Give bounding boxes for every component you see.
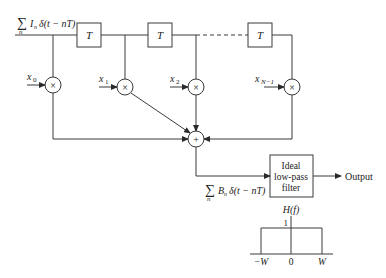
svg-text:2: 2 — [176, 78, 180, 86]
svg-text:1: 1 — [105, 78, 109, 86]
svg-text:1: 1 — [284, 218, 289, 228]
svg-text:T: T — [157, 29, 164, 41]
delay-box-1: T — [77, 23, 101, 47]
svg-text:W: W — [318, 257, 327, 267]
svg-text:×: × — [122, 82, 128, 93]
svg-text:N−1: N−1 — [260, 78, 274, 86]
svg-text:−W: −W — [254, 257, 269, 267]
input-signal-label: ∑ n I n δ(t − nT) — [17, 15, 76, 36]
svg-text:H(f): H(f) — [282, 204, 300, 216]
svg-text:x: x — [169, 73, 175, 84]
svg-text:x: x — [254, 73, 260, 84]
delay-box-2: T — [148, 23, 172, 47]
svg-text:n: n — [207, 195, 211, 203]
summed-signal-label: ∑ n B n δ(t − nT) — [205, 182, 266, 203]
adder: + — [188, 131, 204, 147]
svg-text:δ(t − nT): δ(t − nT) — [229, 185, 266, 197]
multiplier-x0: × x 0 — [26, 71, 61, 93]
svg-text:filter: filter — [282, 183, 301, 193]
svg-text:x: x — [98, 73, 104, 84]
svg-text:T: T — [257, 29, 264, 41]
frequency-response-plot: H(f) 1 −W 0 W — [250, 204, 333, 267]
svg-text:low-pass: low-pass — [274, 172, 308, 182]
transversal-filter-diagram: ∑ n I n δ(t − nT) T T T × x 0 × — [0, 0, 386, 278]
svg-text:n: n — [224, 191, 227, 197]
multiplier-x1: × x 1 — [98, 73, 133, 95]
svg-text:0: 0 — [33, 76, 37, 84]
svg-text:×: × — [193, 82, 199, 93]
delay-box-3: T — [248, 23, 272, 47]
svg-text:δ(t − nT): δ(t − nT) — [39, 18, 76, 30]
svg-text:0: 0 — [289, 257, 294, 267]
svg-text:×: × — [289, 82, 295, 93]
multiplier-x2: × x 2 — [169, 73, 204, 95]
svg-text:n: n — [34, 24, 37, 30]
svg-text:×: × — [50, 80, 56, 91]
svg-text:Ideal: Ideal — [282, 161, 301, 171]
svg-text:T: T — [86, 29, 93, 41]
svg-text:x: x — [26, 71, 32, 82]
svg-text:+: + — [193, 134, 199, 145]
ideal-low-pass-filter: Ideal low-pass filter — [270, 155, 313, 197]
multiplier-xN-1: × x N−1 — [254, 73, 300, 95]
output-label: Output — [345, 171, 373, 182]
